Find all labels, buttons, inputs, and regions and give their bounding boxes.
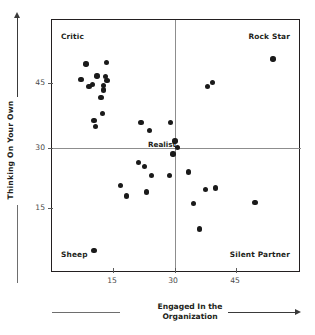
y-axis-title-container: Thinking On Your Own <box>2 95 18 205</box>
quadrant-label-rock-star: Rock Star <box>249 32 290 41</box>
data-point <box>213 185 218 190</box>
data-point <box>252 200 257 205</box>
data-point <box>78 77 83 82</box>
data-point <box>191 201 196 206</box>
data-point <box>124 193 129 198</box>
y-axis-title: Thinking On Your Own <box>6 101 15 200</box>
y-tick-label-30: 30 <box>31 143 45 152</box>
x-tick-label-30: 30 <box>168 276 178 285</box>
data-point <box>167 173 172 178</box>
y-tick-mark-15 <box>48 208 53 209</box>
data-point <box>175 145 180 150</box>
data-point <box>91 248 96 253</box>
x-tick-mark-30 <box>175 268 176 273</box>
data-point <box>93 124 98 129</box>
data-point <box>101 87 106 92</box>
x-tick-mark-45 <box>236 268 237 273</box>
data-point <box>270 56 275 61</box>
quadrant-label-critic: Critic <box>61 32 84 41</box>
data-point <box>104 60 109 65</box>
data-point <box>144 189 149 194</box>
data-point <box>203 187 208 192</box>
x-tick-label-45: 45 <box>230 276 240 285</box>
data-point <box>86 84 91 89</box>
x-axis-title-line2: Organization <box>135 312 245 322</box>
y-axis-tail-line <box>17 205 18 283</box>
y-axis-direction-arrow-icon <box>17 17 18 97</box>
x-tick-mark-15 <box>113 268 114 273</box>
data-point <box>100 111 105 116</box>
plot-area: Critic Rock Star Sheep Silent Partner Re… <box>51 19 300 272</box>
quadrant-label-silent-partner: Silent Partner <box>230 250 290 259</box>
y-tick-mark-45 <box>48 83 53 84</box>
quadrant-label-sheep: Sheep <box>61 250 88 259</box>
data-point <box>172 138 177 143</box>
data-point <box>138 120 143 125</box>
data-point <box>210 80 215 85</box>
data-point <box>104 78 109 83</box>
x-axis-direction-arrow-icon <box>228 312 296 313</box>
data-point <box>147 128 152 133</box>
data-point <box>118 183 123 188</box>
data-point <box>91 118 96 123</box>
y-tick-mark-30 <box>48 148 53 149</box>
data-point <box>149 173 154 178</box>
scatter-chart-figure: Thinking On Your Own 45 30 15 15 30 45 E… <box>0 0 315 335</box>
y-tick-label-45: 45 <box>31 78 45 87</box>
data-point <box>83 61 88 66</box>
data-point <box>168 120 173 125</box>
x-tick-label-15: 15 <box>107 276 117 285</box>
data-point <box>186 169 191 174</box>
data-point <box>98 95 103 100</box>
data-point <box>197 226 202 231</box>
data-point <box>94 73 99 78</box>
y-tick-label-15: 15 <box>31 203 45 212</box>
data-point <box>142 164 147 169</box>
data-point <box>205 84 210 89</box>
data-point <box>136 160 141 165</box>
x-axis-title-line1: Engaged In the <box>135 302 245 312</box>
x-axis-tail-line <box>52 312 120 313</box>
data-point <box>170 151 175 156</box>
